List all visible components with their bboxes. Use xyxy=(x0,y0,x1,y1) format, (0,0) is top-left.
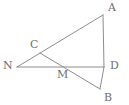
segment-C-B xyxy=(40,53,100,89)
segment-A-D xyxy=(103,15,104,67)
vertex-label-D: D xyxy=(110,60,119,71)
figure-canvas xyxy=(0,0,129,105)
segment-D-B xyxy=(100,67,104,89)
vertex-label-B: B xyxy=(104,92,112,103)
vertex-label-A: A xyxy=(108,2,116,13)
geometry-figure: A C N D M B xyxy=(0,0,129,105)
vertex-label-M: M xyxy=(57,69,68,80)
vertex-label-N: N xyxy=(3,60,13,71)
vertex-label-C: C xyxy=(30,39,38,50)
